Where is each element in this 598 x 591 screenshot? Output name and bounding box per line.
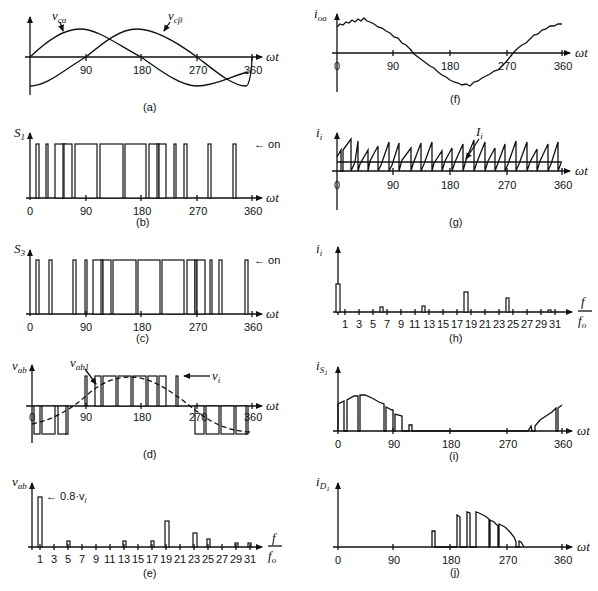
svg-text:11: 11 <box>104 553 115 565</box>
id1-waveform <box>432 512 524 547</box>
svg-text:270: 270 <box>189 64 207 76</box>
svg-text:ωt: ωt <box>577 539 590 554</box>
svg-text:iD1: iD1 <box>316 474 330 493</box>
svg-text:0: 0 <box>27 321 33 333</box>
caption-j: (j) <box>450 566 460 578</box>
svg-text:360: 360 <box>554 438 572 450</box>
svg-text:5: 5 <box>65 553 71 565</box>
svg-text:0: 0 <box>334 60 340 72</box>
svg-text:180: 180 <box>442 554 460 566</box>
svg-text:f: f <box>581 294 587 309</box>
svg-text:9: 9 <box>398 318 404 330</box>
svg-text:← on: ← on <box>254 254 280 266</box>
panel-f: ioa ωt 0 90 180 270 360 (f) <box>314 6 588 105</box>
svg-text:25: 25 <box>202 553 214 565</box>
svg-text:90: 90 <box>80 205 92 217</box>
panel-i: iS1 ωt 0 90 180 270 360 (i) <box>316 358 590 462</box>
svg-text:0: 0 <box>29 411 35 423</box>
svg-text:13: 13 <box>423 318 435 330</box>
panel-e: vab ← 0.8·vi f fo 1 3 5 7 9 11 13 15 17 … <box>12 474 282 579</box>
svg-text:ωt: ωt <box>266 306 279 321</box>
svg-text:23: 23 <box>188 553 200 565</box>
svg-text:vab: vab <box>12 474 27 491</box>
svg-text:360: 360 <box>554 554 572 566</box>
s1-pulses <box>36 144 236 198</box>
svg-text:27: 27 <box>216 553 228 565</box>
figure-canvas: vca vcβ ωt 90 180 270 360 (a) <box>0 0 598 591</box>
svg-text:90: 90 <box>388 438 400 450</box>
svg-text:7: 7 <box>79 553 85 565</box>
svg-text:270: 270 <box>498 60 516 72</box>
svg-text:360: 360 <box>244 321 262 333</box>
svg-text:ωt: ωt <box>266 398 279 413</box>
svg-text:270: 270 <box>499 438 517 450</box>
svg-text:270: 270 <box>189 205 207 217</box>
svg-text:15: 15 <box>437 318 449 330</box>
svg-text:3: 3 <box>51 553 57 565</box>
panel-d: vab vab1 vi ωt 0 90 180 270 360 (d) <box>12 355 279 460</box>
caption-g: (g) <box>449 216 462 228</box>
svg-text:0: 0 <box>335 554 341 566</box>
vab-spectrum-bars <box>38 497 251 547</box>
svg-text:19: 19 <box>465 318 477 330</box>
harmonic-tick-labels: 1 3 5 7 9 11 13 15 17 19 21 23 25 27 29 … <box>37 553 256 565</box>
svg-text:fo: fo <box>268 548 277 565</box>
svg-text:S3: S3 <box>14 241 26 258</box>
caption-h: (h) <box>449 332 462 344</box>
svg-text:ii: ii <box>316 241 323 258</box>
svg-text:ωt: ωt <box>266 49 279 64</box>
svg-text:90: 90 <box>387 60 399 72</box>
panel-h: ii f fo 1 3 5 7 9 11 13 15 17 19 21 23 2… <box>316 241 592 344</box>
svg-text:90: 90 <box>80 321 92 333</box>
svg-text:ωt: ωt <box>575 163 588 178</box>
panel-g: ii Ii ωt 0 90 180 270 360 (g) <box>316 124 588 228</box>
svg-text:180: 180 <box>442 438 460 450</box>
svg-text:1: 1 <box>37 553 43 565</box>
svg-text:fo: fo <box>578 313 587 330</box>
svg-text:ii: ii <box>316 125 323 142</box>
is1-waveform <box>338 395 562 431</box>
svg-text:31: 31 <box>549 318 561 330</box>
svg-text:vcβ: vcβ <box>168 8 183 25</box>
svg-text:270: 270 <box>498 179 516 191</box>
panel-a: vca vcβ ωt 90 180 270 360 (a) <box>25 8 279 113</box>
svg-text:21: 21 <box>174 553 186 565</box>
svg-text:5: 5 <box>370 318 376 330</box>
caption-a: (a) <box>143 101 156 113</box>
svg-text:270: 270 <box>189 321 207 333</box>
caption-f: (f) <box>450 93 460 105</box>
svg-text:3: 3 <box>356 318 362 330</box>
svg-text:← 0.8·vi: ← 0.8·vi <box>46 490 87 505</box>
svg-text:11: 11 <box>409 318 420 330</box>
svg-text:90: 90 <box>80 64 92 76</box>
svg-text:7: 7 <box>384 318 390 330</box>
caption-d: (d) <box>143 448 156 460</box>
svg-text:0: 0 <box>335 438 341 450</box>
svg-text:180: 180 <box>441 179 459 191</box>
svg-text:31: 31 <box>244 553 256 565</box>
svg-text:15: 15 <box>132 553 144 565</box>
svg-text:29: 29 <box>230 553 242 565</box>
vab-pulses-positive <box>85 376 178 406</box>
svg-text:180: 180 <box>133 64 151 76</box>
ii-waveform <box>337 139 561 171</box>
svg-text:180: 180 <box>133 411 151 423</box>
svg-text:27: 27 <box>521 318 533 330</box>
caption-b: (b) <box>136 216 149 228</box>
svg-text:21: 21 <box>479 318 491 330</box>
svg-text:ωt: ωt <box>266 190 279 205</box>
svg-text:vi: vi <box>212 368 221 385</box>
svg-text:iS1: iS1 <box>316 358 328 377</box>
svg-text:ωt: ωt <box>575 45 588 60</box>
caption-c: (c) <box>136 332 149 344</box>
svg-text:vab1: vab1 <box>70 355 89 372</box>
svg-text:360: 360 <box>244 64 262 76</box>
svg-text:ioa: ioa <box>314 6 327 23</box>
svg-text:23: 23 <box>493 318 505 330</box>
svg-text:17: 17 <box>146 553 158 565</box>
svg-text:17: 17 <box>451 318 463 330</box>
svg-text:ωt: ωt <box>577 423 590 438</box>
svg-text:← on: ← on <box>254 138 280 150</box>
svg-text:19: 19 <box>160 553 172 565</box>
svg-text:270: 270 <box>499 554 517 566</box>
